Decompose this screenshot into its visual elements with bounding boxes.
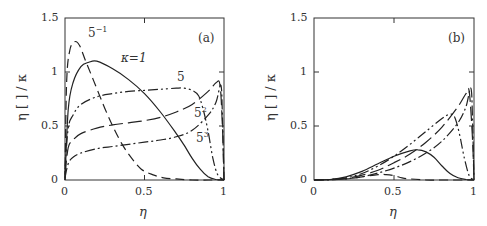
plot-a-xtick-1: 1 xyxy=(220,186,227,197)
plot-b-ytick-1-5: 1.5 xyxy=(290,12,308,23)
curve--5-3 xyxy=(314,88,474,180)
curve-label-k125: 53 xyxy=(196,131,209,144)
plot-b-panel-tag: (b) xyxy=(448,32,465,44)
curve-label-k-inv-base: 5 xyxy=(88,26,96,40)
plot-b-ytick-0-5: 0.5 xyxy=(290,120,308,131)
curve-label-k25-base: 5 xyxy=(194,106,202,120)
plot-b-xtick-0: 0 xyxy=(310,186,317,197)
curve--5-2 xyxy=(314,88,474,180)
curve--1 xyxy=(65,61,224,180)
curve-label-k5: 5 xyxy=(177,71,185,83)
plot-a-xlabel: η xyxy=(139,205,147,218)
curve-label-k125-base: 5 xyxy=(196,131,204,145)
plot-b-ytick-1: 1 xyxy=(300,66,307,77)
plot-a-ytick-0-5: 0.5 xyxy=(41,120,59,131)
plot-b-ylabel: η [ ] / κ xyxy=(264,68,277,128)
plot-a-xtick-0-5: 0.5 xyxy=(135,186,153,197)
plot-a-ytick-1: 1 xyxy=(51,66,58,77)
plot-b-xlabel: η xyxy=(389,205,397,218)
plot-b-xtick-0-5: 0.5 xyxy=(384,186,402,197)
plot-b-ytick-0: 0 xyxy=(300,174,307,185)
plot-a-panel-tag: (a) xyxy=(198,32,215,44)
figure-canvas xyxy=(0,0,487,226)
curve-label-k-inv-sup: −1 xyxy=(96,25,108,34)
plot-a-ytick-1-5: 1.5 xyxy=(41,12,59,23)
plot-a-ytick-0: 0 xyxy=(51,174,58,185)
plot-a-ylabel: η [ ] / κ xyxy=(15,68,28,128)
plot-a-xtick-0: 0 xyxy=(61,186,68,197)
curve-label-k1: κ=1 xyxy=(121,52,147,64)
curve-label-k25: 52 xyxy=(194,106,207,119)
curve-label-k25-sup: 2 xyxy=(202,105,207,114)
plot-b-xtick-1: 1 xyxy=(470,186,477,197)
curve--5 xyxy=(314,114,474,180)
plot-b-curves xyxy=(314,88,474,180)
curve-label-k-inv: 5−1 xyxy=(88,26,107,39)
curve-label-k125-sup: 3 xyxy=(204,130,209,139)
